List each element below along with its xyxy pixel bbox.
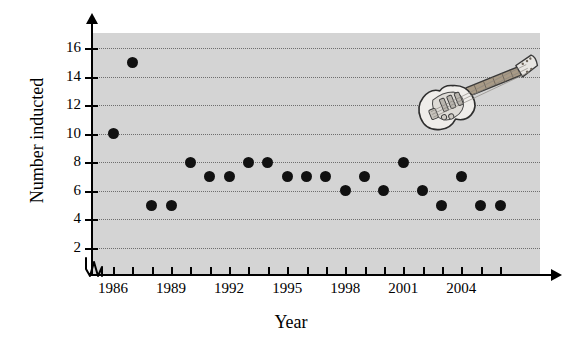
- y-axis-tick: [85, 162, 98, 164]
- x-axis-tick: [500, 267, 502, 276]
- gridline: [92, 162, 540, 163]
- data-point: [224, 171, 235, 182]
- data-point: [166, 200, 177, 211]
- gridline: [92, 219, 540, 220]
- x-axis-tick: [481, 267, 483, 276]
- chart-figure: 246810121416 198619891992199519982001200…: [0, 0, 582, 354]
- y-axis-tick-label: 2: [53, 240, 81, 255]
- x-axis-line: [91, 274, 553, 276]
- x-axis-tick: [132, 267, 134, 276]
- y-axis-tick: [85, 134, 98, 136]
- data-point: [301, 171, 312, 182]
- y-axis-tick-label: 8: [53, 154, 81, 169]
- data-point: [185, 157, 196, 168]
- x-axis-tick: [384, 267, 386, 276]
- x-axis-arrow-icon: [551, 269, 562, 281]
- y-axis-tick: [85, 48, 98, 50]
- y-axis-arrow-icon: [86, 13, 98, 24]
- x-axis-tick: [423, 267, 425, 276]
- y-axis-line: [91, 22, 93, 276]
- data-point: [495, 200, 506, 211]
- x-axis-tick: [171, 267, 173, 276]
- data-point: [127, 57, 138, 68]
- y-axis-tick: [85, 77, 98, 79]
- y-axis-tick-label: 6: [53, 183, 81, 198]
- data-point: [243, 157, 254, 168]
- x-axis-tick: [113, 267, 115, 276]
- data-point: [398, 157, 409, 168]
- x-axis-tick: [307, 267, 309, 276]
- x-axis-tick: [461, 267, 463, 276]
- y-axis-tick: [85, 248, 98, 250]
- y-axis-tick-label: 4: [53, 211, 81, 226]
- y-axis-tick-label: 14: [53, 69, 81, 84]
- x-axis-tick-label: 1989: [146, 281, 196, 296]
- y-axis-tick: [85, 191, 98, 193]
- x-axis-tick: [365, 267, 367, 276]
- x-axis-tick: [326, 267, 328, 276]
- data-point: [475, 200, 486, 211]
- gridline: [92, 248, 540, 249]
- x-axis-tick: [152, 267, 154, 276]
- x-axis-tick: [268, 267, 270, 276]
- x-axis-tick: [345, 267, 347, 276]
- y-axis-tick-label: 10: [53, 126, 81, 141]
- x-axis-tick: [190, 267, 192, 276]
- y-axis-title: Number inducted: [27, 41, 48, 241]
- x-axis-tick: [442, 267, 444, 276]
- x-axis-tick-label: 1995: [262, 281, 312, 296]
- x-axis-tick: [248, 267, 250, 276]
- y-axis-tick: [85, 219, 98, 221]
- axis-break-icon: [84, 252, 110, 278]
- x-axis-title: Year: [0, 312, 582, 333]
- x-axis-tick-label: 1992: [204, 281, 254, 296]
- y-axis-tick-label: 16: [53, 40, 81, 55]
- x-axis-tick-label: 1998: [320, 281, 370, 296]
- x-axis-tick: [210, 267, 212, 276]
- data-point: [146, 200, 157, 211]
- x-axis-tick-label: 2001: [378, 281, 428, 296]
- x-axis-tick-label: 1986: [88, 281, 138, 296]
- gridline: [92, 191, 540, 192]
- data-point: [456, 171, 467, 182]
- data-point: [282, 171, 293, 182]
- data-point: [108, 128, 119, 139]
- data-point: [340, 185, 351, 196]
- electric-guitar-icon: [404, 44, 544, 136]
- y-axis-tick: [85, 105, 98, 107]
- x-axis-tick: [287, 267, 289, 276]
- y-axis-tick-label: 12: [53, 97, 81, 112]
- x-axis-tick-label: 2004: [436, 281, 486, 296]
- x-axis-tick: [403, 267, 405, 276]
- x-axis-tick: [229, 267, 231, 276]
